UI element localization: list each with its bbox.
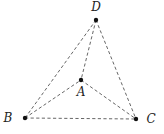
label-c: C: [146, 112, 155, 126]
edge-db: [25, 20, 96, 118]
vertex-a: [79, 78, 83, 82]
label-d: D: [90, 0, 101, 14]
vertex-c: [134, 117, 138, 121]
labels-group: ABCD: [3, 0, 156, 126]
vertex-b: [23, 116, 27, 120]
edge-ba: [25, 80, 81, 118]
tetrahedron-diagram: ABCD: [0, 0, 164, 134]
vertex-d: [94, 18, 98, 22]
edge-dc: [96, 20, 136, 119]
vertices-group: [23, 18, 138, 121]
edges-group: [25, 20, 136, 119]
label-b: B: [3, 111, 13, 125]
edge-bc: [25, 118, 136, 119]
edge-da: [81, 20, 96, 80]
label-a: A: [76, 85, 86, 99]
